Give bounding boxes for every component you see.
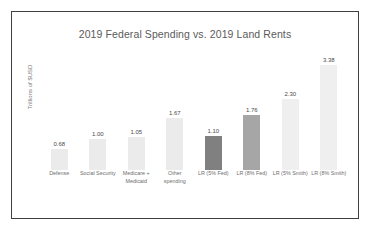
bar — [205, 136, 222, 170]
bar — [128, 137, 145, 170]
x-axis-label-7: LR (8% Smith) — [310, 170, 349, 178]
x-axis-label-4: LR (5% Fed) — [194, 170, 233, 178]
bar — [166, 118, 183, 170]
bar-value-label: 1.76 — [246, 107, 258, 113]
bar-group: 1.67 — [156, 46, 195, 170]
bar-value-label: 1.05 — [130, 129, 142, 135]
bar-group: 1.00 — [79, 46, 118, 170]
bar-group: 3.38 — [310, 46, 349, 170]
bar — [89, 139, 106, 170]
chart-frame: 2019 Federal Spending vs. 2019 Land Rent… — [11, 11, 359, 219]
bar-value-label: 1.67 — [169, 110, 181, 116]
x-axis-label-5: LR (8% Fed) — [233, 170, 272, 178]
bar — [243, 115, 260, 170]
x-axis-label-0: Defense — [40, 170, 79, 178]
bar-value-label: 2.30 — [284, 91, 296, 97]
x-axis-label-6: LR (5% Smith) — [271, 170, 310, 178]
bar-group: 0.68 — [40, 46, 79, 170]
bar-group: 2.30 — [271, 46, 310, 170]
bar — [51, 149, 68, 170]
bar-group: 1.10 — [194, 46, 233, 170]
bar — [282, 99, 299, 170]
bar-value-label: 1.00 — [92, 131, 104, 137]
x-axis-label-2: Medicare + Medicaid — [117, 170, 156, 186]
bar — [320, 65, 337, 170]
y-axis-label: Trillions of $USD — [27, 50, 33, 124]
bar-value-label: 0.68 — [53, 141, 65, 147]
x-axis-label-3: Other spending — [156, 170, 195, 186]
bar-group: 1.76 — [233, 46, 272, 170]
x-axis-tick-labels: DefenseSocial SecurityMedicare + Medicai… — [40, 170, 348, 206]
plot-area: 0.681.001.051.671.101.762.303.38 Defense… — [40, 46, 348, 210]
bar-series: 0.681.001.051.671.101.762.303.38 — [40, 46, 348, 170]
bar-value-label: 1.10 — [207, 128, 219, 134]
x-axis-label-1: Social Security — [79, 170, 118, 178]
bar-value-label: 3.38 — [323, 57, 335, 63]
chart-title: 2019 Federal Spending vs. 2019 Land Rent… — [12, 28, 358, 40]
bar-group: 1.05 — [117, 46, 156, 170]
